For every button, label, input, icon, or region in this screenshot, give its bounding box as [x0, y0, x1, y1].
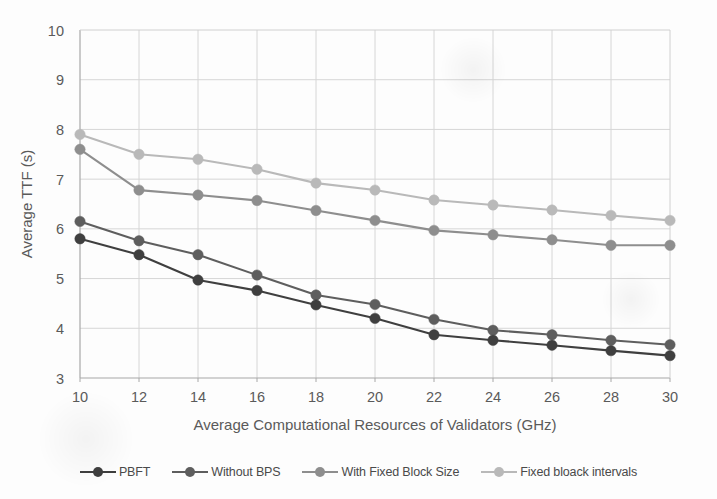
data-point-marker [193, 275, 203, 285]
data-point-marker [665, 339, 675, 349]
data-point-marker [665, 240, 675, 250]
data-point-marker [193, 154, 203, 164]
chart-legend: PBFT Without BPS With Fixed Block Size F… [0, 455, 717, 489]
data-point-marker [665, 215, 675, 225]
x-tick-label: 28 [603, 389, 619, 405]
data-point-marker [311, 300, 321, 310]
x-tick-label: 10 [72, 389, 88, 405]
x-tick-label: 22 [426, 389, 442, 405]
data-point-marker [134, 185, 144, 195]
x-tick-label: 18 [308, 389, 324, 405]
chart-figure: 3456789101012141618202224262830Average C… [0, 0, 717, 499]
data-point-marker [488, 230, 498, 240]
data-point-marker [547, 340, 557, 350]
x-tick-label: 24 [485, 389, 501, 405]
data-point-marker [75, 129, 85, 139]
x-tick-label: 26 [544, 389, 560, 405]
y-tick-label: 6 [56, 221, 64, 237]
data-point-marker [606, 345, 616, 355]
data-point-marker [370, 215, 380, 225]
data-point-marker [488, 335, 498, 345]
y-axis-title: Average TTF (s) [18, 150, 35, 259]
data-point-marker [134, 250, 144, 260]
x-axis-title: Average Computational Resources of Valid… [194, 416, 557, 433]
legend-marker-icon-3 [481, 466, 517, 478]
data-point-marker [429, 195, 439, 205]
data-point-marker [75, 216, 85, 226]
legend-marker-icon-0 [80, 466, 116, 478]
data-point-marker [311, 178, 321, 188]
line-chart: 3456789101012141618202224262830Average C… [0, 0, 717, 499]
x-tick-label: 20 [367, 389, 383, 405]
data-point-marker [252, 270, 262, 280]
data-point-marker [370, 299, 380, 309]
legend-item-3[interactable]: Fixed bloack intervals [481, 465, 637, 479]
x-tick-label: 16 [249, 389, 265, 405]
data-point-marker [547, 330, 557, 340]
data-point-marker [429, 225, 439, 235]
y-tick-label: 7 [56, 172, 64, 188]
data-point-marker [134, 236, 144, 246]
data-point-marker [488, 325, 498, 335]
y-tick-label: 9 [56, 72, 64, 88]
data-point-marker [665, 350, 675, 360]
x-tick-label: 14 [190, 389, 206, 405]
data-point-marker [193, 190, 203, 200]
legend-label-1: Without BPS [211, 465, 280, 479]
data-point-marker [429, 330, 439, 340]
data-point-marker [75, 144, 85, 154]
y-tick-label: 3 [56, 371, 64, 387]
data-point-marker [252, 195, 262, 205]
data-point-marker [311, 290, 321, 300]
y-tick-label: 10 [48, 23, 64, 39]
legend-marker-icon-1 [172, 466, 208, 478]
data-point-marker [488, 200, 498, 210]
data-point-marker [547, 205, 557, 215]
data-point-marker [370, 185, 380, 195]
data-point-marker [193, 250, 203, 260]
data-point-marker [311, 205, 321, 215]
y-tick-label: 4 [56, 321, 64, 337]
data-point-marker [370, 313, 380, 323]
legend-item-2[interactable]: With Fixed Block Size [302, 465, 459, 479]
data-point-marker [252, 164, 262, 174]
x-tick-label: 12 [131, 389, 147, 405]
legend-item-0[interactable]: PBFT [80, 465, 150, 479]
data-point-marker [75, 234, 85, 244]
grid-lines [80, 30, 670, 378]
legend-label-0: PBFT [119, 465, 150, 479]
data-point-marker [606, 335, 616, 345]
legend-label-3: Fixed bloack intervals [520, 465, 637, 479]
data-point-marker [606, 240, 616, 250]
data-point-marker [606, 210, 616, 220]
y-tick-label: 5 [56, 271, 64, 287]
x-tick-label: 30 [662, 389, 678, 405]
data-point-marker [547, 235, 557, 245]
legend-marker-icon-2 [302, 466, 338, 478]
legend-item-1[interactable]: Without BPS [172, 465, 280, 479]
data-point-marker [429, 314, 439, 324]
data-point-marker [252, 285, 262, 295]
data-point-marker [134, 149, 144, 159]
y-tick-label: 8 [56, 122, 64, 138]
legend-label-2: With Fixed Block Size [341, 465, 459, 479]
axis-titles: Average Computational Resources of Valid… [18, 150, 556, 433]
